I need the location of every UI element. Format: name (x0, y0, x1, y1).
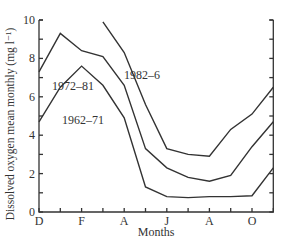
series-label: 1982–6 (124, 68, 160, 82)
x-axis-label: Months (138, 225, 175, 239)
series-label: 1972–81 (52, 79, 94, 93)
x-tick-label: A (120, 214, 129, 228)
chart-labels: 0246810DFAJAOMonthsDissolved oxygen mean… (4, 13, 257, 239)
x-tick-label: D (35, 214, 44, 228)
x-tick-label: A (205, 214, 214, 228)
y-tick-label: 10 (23, 13, 35, 27)
chart-series-lines (39, 22, 273, 198)
series-line (103, 22, 273, 156)
x-tick-label: F (78, 214, 85, 228)
y-tick-label: 2 (29, 167, 35, 181)
y-tick-label: 4 (29, 128, 35, 142)
y-tick-label: 6 (29, 90, 35, 104)
x-tick-label: O (248, 214, 257, 228)
series-line (39, 33, 273, 181)
y-tick-label: 8 (29, 51, 35, 65)
y-axis-label: Dissolved oxygen mean monthly (mg l⁻¹) (4, 28, 17, 221)
series-label: 1962–71 (62, 113, 104, 127)
dissolved-oxygen-line-chart: 0246810DFAJAOMonthsDissolved oxygen mean… (0, 0, 290, 250)
